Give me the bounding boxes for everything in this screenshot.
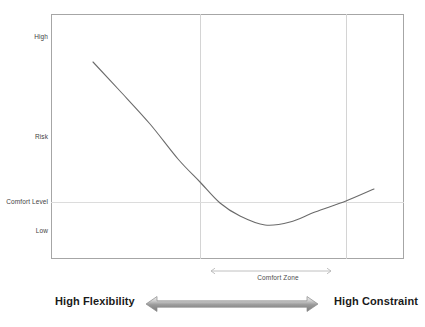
axis-label-high-constraint: High Constraint: [334, 295, 418, 307]
gridline-vertical-right: [346, 14, 347, 259]
risk-vs-constraint-figure: High Risk Comfort Level Low Comfort Zone…: [0, 0, 425, 327]
plot-area: [51, 14, 404, 259]
gridline-vertical-left: [200, 14, 201, 259]
y-axis-label-risk-text: Risk: [35, 133, 48, 140]
cropped-title: [48, 0, 348, 2]
y-axis-label-comfort-level-text: Comfort Level: [6, 198, 48, 205]
axis-label-high-flexibility: High Flexibility: [55, 295, 135, 307]
comfort-zone-label: Comfort Zone: [210, 274, 346, 281]
gridline-comfort-level: [51, 202, 404, 203]
y-axis-label-low-text: Low: [36, 227, 48, 234]
y-axis-label-high-text: High: [34, 33, 48, 40]
